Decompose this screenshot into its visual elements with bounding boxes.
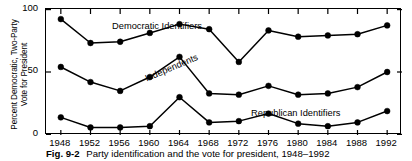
data-point-republican-1948 [58,114,64,120]
data-point-republican-1992 [384,108,390,114]
data-point-independents-1988 [355,84,361,90]
plot-area: Democratic Identifiers Independents Repu… [45,8,401,134]
data-point-democratic-1952 [88,40,94,46]
data-point-independents-1952 [88,79,94,85]
data-point-independents-1956 [117,88,123,94]
data-point-republican-1956 [117,125,123,131]
y-tick-label-50: 50 [14,65,38,75]
y-tick-label-100: 100 [14,3,38,13]
data-point-republican-1980 [295,121,301,127]
data-point-democratic-1988 [355,31,361,37]
x-tick-label-1992: 1992 [369,138,403,148]
data-point-republican-1964 [177,94,183,100]
data-point-democratic-1948 [58,16,64,22]
data-point-democratic-1984 [325,33,331,39]
data-point-independents-1948 [58,64,64,70]
data-point-democratic-1992 [384,22,390,28]
figure-caption-text: Party identification and the vote for pr… [86,148,329,159]
data-point-independents-1992 [384,69,390,75]
data-point-republican-1984 [325,123,331,129]
data-point-republican-1952 [88,125,94,131]
series-label-democratic: Democratic Identifiers [112,22,202,31]
data-point-republican-1960 [147,123,153,129]
data-point-republican-1968 [206,120,212,126]
data-point-independents-1968 [206,91,212,97]
data-point-democratic-1968 [206,26,212,32]
data-point-independents-1972 [236,92,242,98]
data-point-independents-1980 [295,92,301,98]
bottom-axis-ticks [61,130,387,135]
data-point-independents-1976 [266,83,272,89]
series-line-independents [61,57,387,95]
data-point-democratic-1972 [236,59,242,65]
series-label-republican: Republican Identifiers [251,109,340,118]
top-axis-ticks [61,9,387,14]
right-axis-ticks [397,10,402,135]
figure-party-identification-vote: Percent Democratic, Two-Party Vote for P… [0,0,412,161]
y-axis-label-line1: Percent Democratic, Two-Party [10,5,19,145]
data-point-republican-1988 [355,120,361,126]
data-point-democratic-1976 [266,28,272,34]
series-line-democratic [61,19,387,62]
figure-caption: Fig. 9-2 Party identification and the vo… [46,149,329,159]
data-point-independents-1984 [325,91,331,97]
chart-canvas [46,9,402,135]
data-point-republican-1972 [236,118,242,124]
data-point-democratic-1956 [117,39,123,45]
y-tick-label-0: 0 [14,128,38,138]
figure-caption-number: Fig. 9-2 [46,148,80,159]
left-axis-ticks [46,10,51,135]
data-point-democratic-1980 [295,34,301,40]
